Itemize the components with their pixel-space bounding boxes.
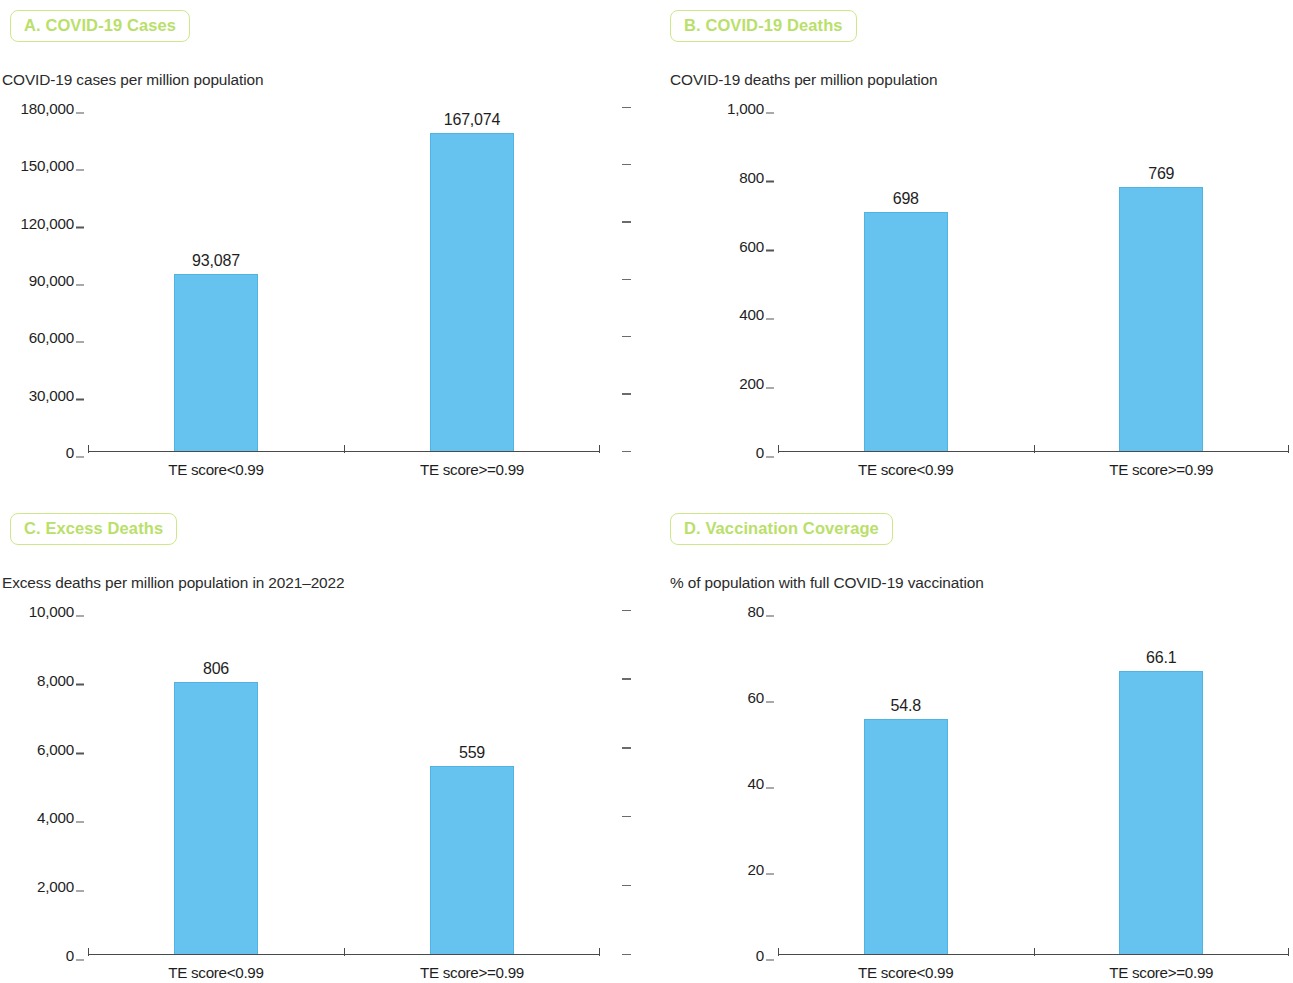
y-tick-mark-right [622, 954, 631, 955]
bar: 93,087 [174, 274, 258, 452]
y-tick-mark [766, 319, 774, 320]
y-tick-label: 10,000 [29, 603, 88, 620]
y-tick-mark [76, 822, 84, 823]
y-tick-mark-right [622, 164, 631, 165]
y-tick-mark [766, 112, 774, 113]
panel-a-axes: 030,00060,00090,000120,000150,000180,000… [88, 108, 600, 452]
bar: 559 [430, 766, 514, 955]
bar-value-label: 54.8 [891, 697, 921, 715]
bar: 167,074 [430, 133, 514, 452]
panel-b-subtitle: COVID-19 deaths per million population [670, 71, 937, 89]
panel-a-badge: A. COVID-19 Cases [10, 10, 190, 42]
y-tick-mark-right [622, 816, 631, 817]
x-category-label: TE score<0.99 [168, 461, 263, 478]
y-tick-label: 0 [66, 444, 88, 461]
bar: 66.1 [1119, 671, 1203, 955]
x-category-label: TE score<0.99 [858, 964, 953, 981]
y-tick-label: 120,000 [21, 214, 89, 231]
y-tick-label: 60,000 [29, 329, 88, 346]
y-tick-label: 200 [739, 375, 778, 392]
y-tick-mark [766, 456, 774, 457]
y-tick-mark [76, 169, 84, 170]
y-tick-label: 4,000 [37, 809, 88, 826]
panel-b-x-tick-mid [1034, 445, 1035, 453]
panel-a-x-tick-start [88, 445, 89, 453]
bar-value-label: 66.1 [1146, 649, 1176, 667]
y-tick-mark [76, 284, 84, 285]
y-tick-mark [76, 959, 84, 960]
y-tick-label: 90,000 [29, 272, 88, 289]
y-tick-label: 800 [739, 168, 778, 185]
panel-d-subtitle: % of population with full COVID-19 vacci… [670, 574, 984, 592]
y-tick-label: 8,000 [37, 671, 88, 688]
x-category-label: TE score<0.99 [168, 964, 263, 981]
bar: 54.8 [864, 719, 948, 955]
bar: 698 [864, 212, 948, 452]
panel-c-badge: C. Excess Deaths [10, 513, 177, 545]
panel-a-x-tick-mid [344, 445, 345, 453]
panel-b-badge: B. COVID-19 Deaths [670, 10, 857, 42]
y-tick-mark-right [622, 221, 631, 222]
y-tick-mark-right [622, 610, 631, 611]
panel-c: C. Excess Deaths Excess deaths per milli… [0, 503, 635, 983]
y-tick-label: 2,000 [37, 878, 88, 895]
y-tick-label: 60 [748, 689, 779, 706]
y-tick-mark [76, 684, 84, 685]
y-tick-label: 400 [739, 306, 778, 323]
y-tick-mark [766, 181, 774, 182]
y-tick-label: 600 [739, 237, 778, 254]
y-tick-label: 30,000 [29, 386, 88, 403]
y-tick-mark-right [622, 678, 631, 679]
panel-d-axes: 020406080 54.8TE score<0.9966.1TE score>… [778, 611, 1289, 955]
y-tick-mark-right [622, 336, 631, 337]
panel-a-plot: 030,00060,00090,000120,000150,000180,000… [0, 100, 635, 492]
y-tick-label: 150,000 [21, 157, 89, 174]
y-tick-mark-right [622, 451, 631, 452]
y-tick-label: 80 [748, 603, 779, 620]
y-tick-mark-right [622, 107, 631, 108]
bar-value-label: 806 [203, 660, 229, 678]
panel-a: A. COVID-19 Cases COVID-19 cases per mil… [0, 0, 635, 492]
y-tick-mark-right [622, 747, 631, 748]
bar: 769 [1119, 187, 1203, 452]
y-tick-label: 0 [756, 444, 778, 461]
panel-d-x-tick-start [778, 948, 779, 956]
panel-d: D. Vaccination Coverage % of population … [660, 503, 1293, 983]
panel-c-axes: 02,0004,0006,0008,00010,000 806TE score<… [88, 611, 600, 955]
y-tick-mark [766, 387, 774, 388]
y-tick-mark-right [622, 885, 631, 886]
y-tick-mark [76, 399, 84, 400]
y-tick-mark [766, 701, 774, 702]
panel-b: B. COVID-19 Deaths COVID-19 deaths per m… [660, 0, 1293, 492]
bar-value-label: 559 [459, 744, 485, 762]
x-category-label: TE score>=0.99 [1109, 964, 1213, 981]
y-tick-mark [766, 959, 774, 960]
panel-c-x-tick-mid [344, 948, 345, 956]
panel-c-x-tick-end [599, 948, 600, 956]
panel-b-axes: 02004006008001,000 698TE score<0.99769TE… [778, 108, 1289, 452]
panel-c-plot: 02,0004,0006,0008,00010,000 806TE score<… [0, 603, 635, 983]
y-tick-label: 0 [756, 947, 778, 964]
y-tick-mark [76, 456, 84, 457]
panel-c-x-tick-start [88, 948, 89, 956]
panel-d-x-tick-end [1288, 948, 1289, 956]
y-tick-mark [76, 753, 84, 754]
x-category-label: TE score>=0.99 [420, 461, 524, 478]
bar-value-label: 93,087 [192, 252, 240, 270]
y-tick-mark [76, 227, 84, 228]
bar: 806 [174, 682, 258, 955]
bar-value-label: 167,074 [444, 111, 500, 129]
y-tick-mark [766, 615, 774, 616]
y-tick-label: 40 [748, 775, 779, 792]
x-category-label: TE score>=0.99 [1109, 461, 1213, 478]
y-tick-label: 6,000 [37, 740, 88, 757]
panel-b-x-tick-end [1288, 445, 1289, 453]
panel-d-badge: D. Vaccination Coverage [670, 513, 893, 545]
y-tick-mark-right [622, 279, 631, 280]
y-tick-label: 0 [66, 947, 88, 964]
panel-c-subtitle: Excess deaths per million population in … [2, 574, 344, 592]
y-tick-mark-right [622, 393, 631, 394]
panel-d-plot: 020406080 54.8TE score<0.9966.1TE score>… [660, 603, 1293, 983]
bar-value-label: 769 [1148, 165, 1174, 183]
x-category-label: TE score>=0.99 [420, 964, 524, 981]
